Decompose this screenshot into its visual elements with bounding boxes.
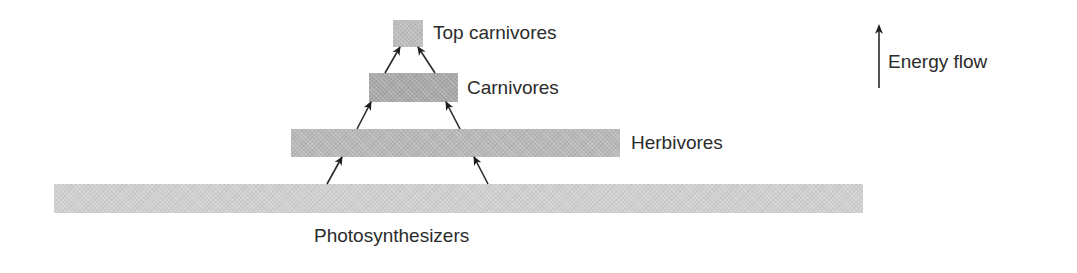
label-carnivores: Carnivores <box>467 77 559 99</box>
energy-flow-label: Energy flow <box>888 51 987 73</box>
level-herbivores <box>291 129 620 157</box>
level-carnivores <box>369 73 458 102</box>
arrow-icon <box>327 157 342 184</box>
arrow-icon <box>446 102 460 129</box>
arrow-icon <box>474 157 488 184</box>
label-photosynthesizers: Photosynthesizers <box>314 225 469 247</box>
up-arrow-icon <box>875 24 883 88</box>
label-top-carnivores: Top carnivores <box>433 22 557 44</box>
level-photosynthesizers <box>54 184 863 213</box>
label-herbivores: Herbivores <box>631 132 723 154</box>
arrow-icon <box>357 102 371 129</box>
arrow-icon <box>385 47 400 73</box>
arrow-icon <box>418 47 435 73</box>
level-top-carnivores <box>393 20 423 47</box>
flow-arrows <box>327 47 488 184</box>
